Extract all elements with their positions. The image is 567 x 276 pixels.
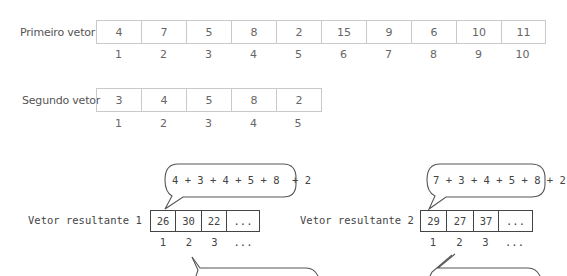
index-label: 3 <box>473 236 498 248</box>
index-label: 2 <box>446 236 473 248</box>
speech-bubbles <box>0 0 567 276</box>
index-label: 1 <box>150 236 176 248</box>
speech-bubble-3 <box>192 257 318 276</box>
speech-bubble-1 <box>165 164 296 209</box>
index-label: 2 <box>176 236 202 248</box>
result-vector-2: 29 27 37 ... <box>420 210 533 232</box>
result-vector-1-label: Vetor resultante 1 <box>28 214 142 226</box>
result-vector-1-cell: 26 <box>151 211 176 231</box>
result-vector-1: 26 30 22 ... <box>150 210 260 232</box>
result-vector-1-cell: 30 <box>176 211 202 231</box>
result-vector-2-cell: 37 <box>474 211 499 231</box>
index-label: ... <box>227 236 259 248</box>
speech-bubble-4 <box>438 254 540 276</box>
result-vector-2-indices: 1 2 3 ... <box>420 236 531 248</box>
index-label: 3 <box>202 236 227 248</box>
result-vector-2-cell: 29 <box>421 211 447 231</box>
result-vector-2-cell: ... <box>499 211 532 231</box>
result-vector-1-indices: 1 2 3 ... <box>150 236 259 248</box>
result-vector-1-cell: ... <box>227 211 259 231</box>
result-vector-2-label: Vetor resultante 2 <box>300 214 414 226</box>
index-label: 1 <box>420 236 446 248</box>
result-vector-1-cell: 22 <box>202 211 227 231</box>
result-vector-2-cell: 27 <box>447 211 474 231</box>
bubble-2-text: 7 + 3 + 4 + 5 + 8 + 2 <box>433 174 566 186</box>
index-label: ... <box>498 236 531 248</box>
speech-bubble-2 <box>427 164 545 209</box>
bubble-1-text: 4 + 3 + 4 + 5 + 8 + 2 <box>172 174 311 186</box>
